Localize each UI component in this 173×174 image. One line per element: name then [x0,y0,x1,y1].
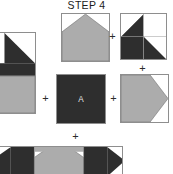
center-square-label: A [78,95,84,104]
quilt-assembly-diagram: STEP 4 [0,0,173,174]
four-patch-shape [121,14,166,59]
bottom-row-strip [0,146,123,174]
plus-operator-right-vertical: + [137,63,148,74]
right-arrow-shape [121,75,168,122]
plus-operator-left: + [40,93,51,104]
plus-operator-top: + [107,31,118,42]
right-arrow-unit [120,74,169,123]
plus-operator-right-horizontal: + [108,93,119,104]
left-corner-unit [0,32,36,114]
center-square-a: A [56,74,106,124]
center-square-shape: A [57,75,105,123]
left-corner-shape [0,33,35,113]
plus-operator-bottom: + [70,131,81,142]
four-patch-unit [120,13,167,60]
page-title: STEP 4 [0,0,173,11]
house-peak-unit [61,13,110,62]
house-peak-shape [62,14,109,61]
bottom-row-shape [0,147,122,174]
